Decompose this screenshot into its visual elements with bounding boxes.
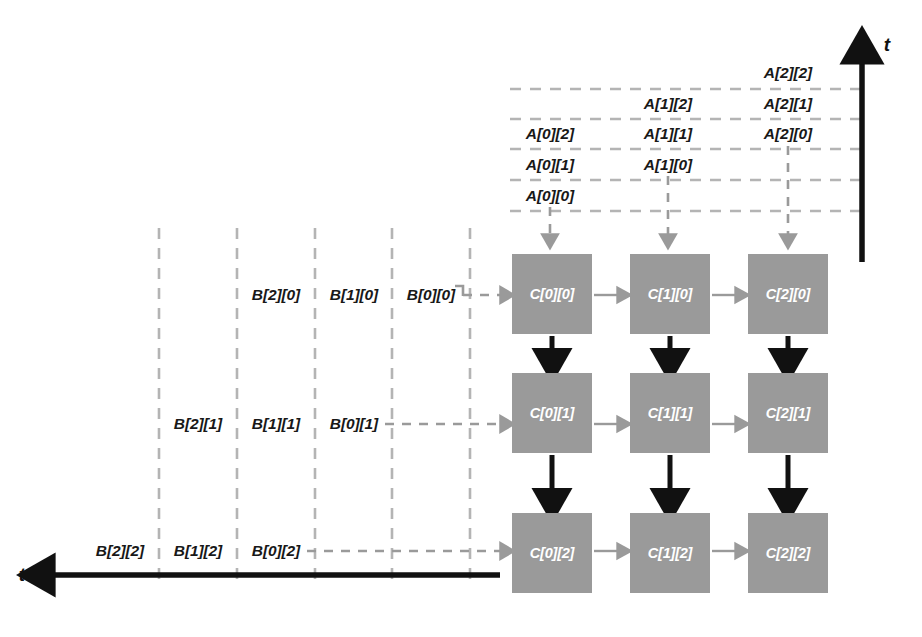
pe-block[interactable]: C[2][0] (748, 254, 828, 334)
a-operand-label: A[0][0] (526, 187, 574, 205)
b-operand-label: B[1][2] (174, 542, 222, 560)
pe-block[interactable]: C[2][1] (748, 373, 828, 453)
b-operand-label: B[2][2] (96, 542, 144, 560)
a-operand-label: A[0][1] (526, 156, 574, 174)
a-operand-label: A[1][1] (644, 125, 692, 143)
b-feed-elbow (455, 286, 463, 296)
a-operand-label: A[2][2] (764, 64, 812, 82)
b-operand-label: B[0][0] (407, 286, 455, 304)
b-operand-label: B[1][1] (252, 415, 300, 433)
pe-block[interactable]: C[0][0] (512, 254, 592, 334)
axis-lines (38, 47, 862, 575)
a-operand-label: A[0][2] (526, 125, 574, 143)
vertical-dashed-timing-lines (159, 228, 470, 586)
b-operand-label: B[2][0] (252, 286, 300, 304)
b-operand-label: B[1][0] (330, 286, 378, 304)
pe-block[interactable]: C[1][1] (630, 373, 710, 453)
a-operand-label: A[1][0] (644, 156, 692, 174)
a-operand-label: A[1][2] (644, 95, 692, 113)
pe-block[interactable]: C[2][2] (748, 513, 828, 593)
b-operand-label: B[2][1] (174, 415, 222, 433)
b-operand-label: B[0][1] (330, 415, 378, 433)
pe-block[interactable]: C[0][2] (512, 513, 592, 593)
diagram-canvas: t t A[0][2] A[0][1] A[0][0] A[1][2] A[1]… (0, 0, 922, 637)
pe-block[interactable]: C[1][2] (630, 513, 710, 593)
axis-label-horizontal: t (19, 564, 25, 586)
pe-block[interactable]: C[0][1] (512, 373, 592, 453)
axis-label-vertical: t (884, 34, 890, 56)
a-operand-label: A[2][1] (764, 95, 812, 113)
b-operand-label: B[0][2] (252, 542, 300, 560)
a-operand-label: A[2][0] (764, 125, 812, 143)
pe-block[interactable]: C[1][0] (630, 254, 710, 334)
